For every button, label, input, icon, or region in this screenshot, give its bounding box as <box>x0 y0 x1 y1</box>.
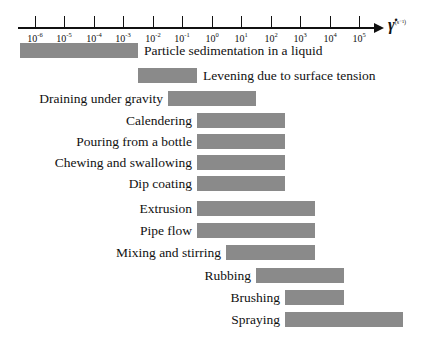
range-bar <box>197 134 285 149</box>
range-bar <box>226 245 315 260</box>
range-bar <box>285 312 403 327</box>
category-label: Levening due to surface tension <box>203 68 375 83</box>
x-tick <box>182 16 183 28</box>
category-label: Extrusion <box>140 201 193 216</box>
x-tick-label: 104 <box>323 31 336 44</box>
x-tick <box>330 16 331 28</box>
category-label: Draining under gravity <box>39 91 163 106</box>
x-tick <box>241 16 242 28</box>
category-label: Spraying <box>231 312 280 327</box>
x-tick <box>153 16 154 28</box>
category-label: Pouring from a bottle <box>76 134 192 149</box>
x-axis-arrow-icon <box>374 23 384 33</box>
x-tick <box>271 16 272 28</box>
x-axis-line <box>18 27 376 29</box>
range-bar <box>197 176 285 191</box>
category-label: Particle sedimentation in a liquid <box>144 43 322 58</box>
category-label: Pipe flow <box>140 223 192 238</box>
x-axis-title: γ̇(s⁻¹) <box>388 16 406 34</box>
x-tick <box>94 16 95 28</box>
x-tick <box>64 16 65 28</box>
category-label: Calendering <box>126 113 192 128</box>
x-tick <box>35 16 36 28</box>
range-bar <box>197 223 315 238</box>
range-bar <box>20 43 138 58</box>
range-bar <box>168 91 256 106</box>
range-bar <box>197 155 285 170</box>
x-tick <box>212 16 213 28</box>
range-bar <box>197 201 315 216</box>
category-label: Mixing and stirring <box>116 245 221 260</box>
category-label: Brushing <box>230 290 280 305</box>
x-tick <box>123 16 124 28</box>
shear-rate-unit: (s⁻¹) <box>395 19 406 25</box>
category-label: Rubbing <box>204 268 251 283</box>
x-tick <box>300 16 301 28</box>
range-bar <box>197 113 285 128</box>
x-tick-label: 105 <box>352 31 365 44</box>
range-bar <box>138 68 197 83</box>
x-tick <box>359 16 360 28</box>
shear-rate-symbol: γ̇ <box>388 16 395 33</box>
category-label: Dip coating <box>129 176 192 191</box>
range-bar <box>285 290 344 305</box>
range-bar <box>256 268 344 283</box>
category-label: Chewing and swallowing <box>55 155 192 170</box>
